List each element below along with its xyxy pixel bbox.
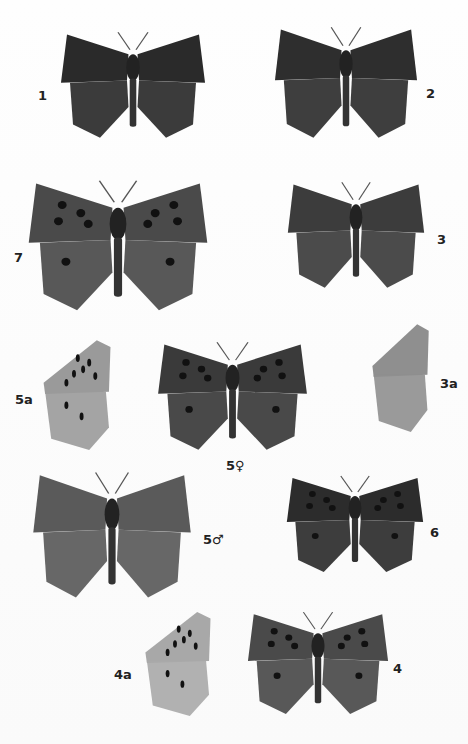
figure-label-3: 3 xyxy=(437,232,446,247)
figure-label-5f: 5♀ xyxy=(226,458,245,473)
butterfly-icon xyxy=(138,610,212,716)
butterfly-figure-1 xyxy=(58,30,208,140)
butterfly-icon xyxy=(272,25,420,140)
butterfly-figure-7 xyxy=(25,178,211,313)
butterfly-figure-4a xyxy=(138,610,212,716)
figure-label-5m: 5♂ xyxy=(203,532,224,547)
specimen-plate: 1 2 7 3 5a xyxy=(0,0,468,744)
figure-label-2: 2 xyxy=(426,86,435,101)
butterfly-icon xyxy=(58,30,208,140)
butterfly-icon xyxy=(155,340,310,452)
butterfly-icon xyxy=(245,610,391,716)
figure-label-7: 7 xyxy=(14,250,23,265)
butterfly-figure-5f xyxy=(155,340,310,452)
butterfly-icon xyxy=(366,322,430,432)
figure-label-6: 6 xyxy=(430,525,439,540)
butterfly-figure-4 xyxy=(245,610,391,716)
butterfly-figure-3 xyxy=(285,180,427,290)
butterfly-figure-2 xyxy=(272,25,420,140)
figure-label-5a: 5a xyxy=(15,392,33,407)
butterfly-icon xyxy=(30,470,194,600)
butterfly-icon xyxy=(25,178,211,313)
butterfly-icon xyxy=(284,474,426,574)
butterfly-figure-6 xyxy=(284,474,426,574)
butterfly-figure-5m xyxy=(30,470,194,600)
figure-label-3a: 3a xyxy=(440,376,458,391)
figure-label-1: 1 xyxy=(38,88,47,103)
figure-label-4a: 4a xyxy=(114,667,132,682)
butterfly-figure-5a xyxy=(36,338,112,450)
butterfly-icon xyxy=(36,338,112,450)
figure-label-4: 4 xyxy=(393,661,402,676)
butterfly-figure-3a xyxy=(366,322,430,432)
butterfly-icon xyxy=(285,180,427,290)
